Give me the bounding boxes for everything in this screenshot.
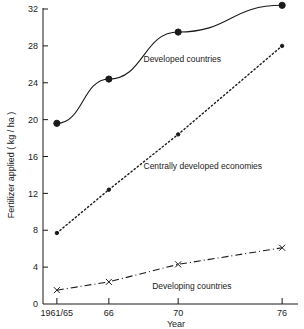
y-tick-label: 16 — [28, 152, 38, 162]
data-point-marker — [54, 120, 60, 126]
series-label: Centrally developed economies — [144, 161, 263, 171]
x-axis-title: Year — [167, 319, 185, 329]
series-layer — [54, 2, 285, 293]
data-point-marker — [279, 2, 285, 8]
series-annotations: Developed countriesCentrally developed e… — [144, 54, 263, 291]
data-point-marker — [106, 76, 112, 82]
chart-container: 048121620242832 1961/65667076 Developed … — [0, 0, 304, 329]
y-tick-label: 4 — [33, 262, 38, 272]
x-tick-label: 70 — [173, 308, 183, 318]
data-point-marker — [107, 188, 110, 191]
y-tick-label: 8 — [33, 225, 38, 235]
y-tick-label: 24 — [28, 78, 38, 88]
data-point-marker — [175, 29, 181, 35]
y-tick-label: 0 — [33, 299, 38, 309]
data-point-marker — [55, 231, 58, 234]
data-point-marker — [176, 133, 179, 136]
data-point-marker — [280, 44, 283, 47]
series-label: Developing countries — [152, 281, 231, 291]
y-tick-label: 28 — [28, 41, 38, 51]
series-line — [57, 46, 282, 233]
series-label: Developed countries — [144, 54, 222, 64]
x-axis-ticks: 1961/65667076 — [41, 298, 288, 318]
x-tick-label: 1961/65 — [41, 308, 74, 318]
y-axis-title: Fertilizer applied ( kg / ha ) — [6, 112, 16, 219]
x-tick-label: 76 — [277, 308, 287, 318]
y-tick-label: 20 — [28, 115, 38, 125]
y-tick-label: 32 — [28, 4, 38, 14]
y-tick-label: 12 — [28, 189, 38, 199]
x-tick-label: 66 — [104, 308, 114, 318]
data-point-marker — [106, 279, 112, 285]
y-axis-ticks: 048121620242832 — [28, 4, 48, 309]
fertilizer-line-chart: 048121620242832 1961/65667076 Developed … — [0, 0, 304, 329]
